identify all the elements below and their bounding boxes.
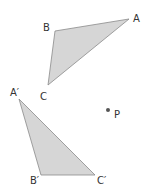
- label-b-prime: B′: [30, 175, 40, 186]
- rotation-diagram: A B C A′ B′ C′ P: [0, 0, 147, 192]
- label-b: B: [43, 22, 50, 33]
- label-c: C: [40, 91, 47, 102]
- point-p: [106, 108, 110, 112]
- label-a-prime: A′: [10, 87, 20, 98]
- label-a: A: [133, 13, 140, 24]
- triangle-a-prime-b-prime-c-prime: [19, 99, 95, 175]
- label-c-prime: C′: [97, 175, 107, 186]
- triangle-abc: [48, 19, 129, 85]
- label-p: P: [114, 109, 120, 120]
